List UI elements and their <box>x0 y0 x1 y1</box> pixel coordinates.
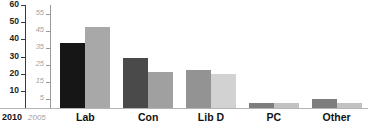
legend-item-2005: 2005 <box>28 110 46 125</box>
x-label-lib-d: Lib D <box>180 110 243 125</box>
bar-group-pc <box>249 0 299 108</box>
y-tick-left_2005-45 <box>46 31 50 32</box>
x-axis-labels: LabConLib DPCOther <box>54 110 368 126</box>
bar-group-lib-d <box>186 0 236 108</box>
bar-group-lab <box>60 0 110 108</box>
bar-group-other <box>312 0 362 108</box>
bar-2010-con <box>123 58 148 108</box>
y-tick-label-left_2005-35: 35 <box>36 43 44 51</box>
bar-2005-lab <box>85 27 110 108</box>
plot-area <box>54 0 368 108</box>
y-axis-2005-line <box>50 5 51 108</box>
y-tick-label-left_2005-15: 15 <box>36 77 44 85</box>
y-tick-label-left_2005-45: 45 <box>36 26 44 34</box>
y-tick-left_2005-35 <box>46 48 50 49</box>
bar-2010-lab <box>60 43 85 108</box>
legend-item-2010: 2010 <box>2 110 22 125</box>
y-tick-left_2005-5 <box>46 99 50 100</box>
bar-group-con <box>123 0 173 108</box>
y-tick-label-left_2005-25: 25 <box>36 60 44 68</box>
x-label-pc: PC <box>242 110 305 125</box>
y-tick-left_2010-20 <box>21 74 25 75</box>
x-axis-baseline <box>0 108 368 109</box>
bar-2010-lib-d <box>186 70 211 108</box>
y-tick-left_2005-25 <box>46 65 50 66</box>
y-tick-label-left_2010-40: 40 <box>10 34 19 43</box>
y-tick-left_2010-50 <box>21 22 25 23</box>
bar-chart: 605040302010 55453525155 LabConLib DPCOt… <box>0 0 368 134</box>
y-tick-label-left_2010-50: 50 <box>10 17 19 26</box>
y-tick-left_2010-30 <box>21 57 25 58</box>
y-axis-2010-line <box>25 5 26 108</box>
legend: 2010 2005 <box>0 110 54 126</box>
y-tick-label-left_2010-20: 20 <box>10 69 19 78</box>
y-tick-label-left_2005-55: 55 <box>36 9 44 17</box>
y-tick-label-left_2005-5: 5 <box>40 94 44 102</box>
y-tick-left_2010-10 <box>21 91 25 92</box>
x-label-lab: Lab <box>54 110 117 125</box>
x-label-con: Con <box>117 110 180 125</box>
y-tick-left_2010-60 <box>21 5 25 6</box>
x-label-other: Other <box>305 110 368 125</box>
y-tick-left_2005-15 <box>46 82 50 83</box>
y-tick-left_2005-55 <box>46 14 50 15</box>
bar-2005-lib-d <box>211 74 236 108</box>
bar-2005-con <box>148 72 173 108</box>
y-tick-label-left_2010-10: 10 <box>10 86 19 95</box>
y-tick-label-left_2010-60: 60 <box>10 0 19 9</box>
y-tick-left_2010-40 <box>21 39 25 40</box>
y-tick-label-left_2010-30: 30 <box>10 52 19 61</box>
bar-2010-other <box>312 99 337 108</box>
